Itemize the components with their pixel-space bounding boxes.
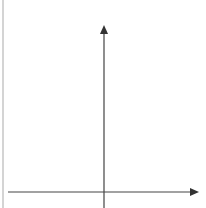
- y-axis-arrowhead-icon: [100, 25, 108, 34]
- coordinate-axes-diagram: [0, 0, 206, 208]
- x-axis-arrowhead-icon: [190, 188, 199, 196]
